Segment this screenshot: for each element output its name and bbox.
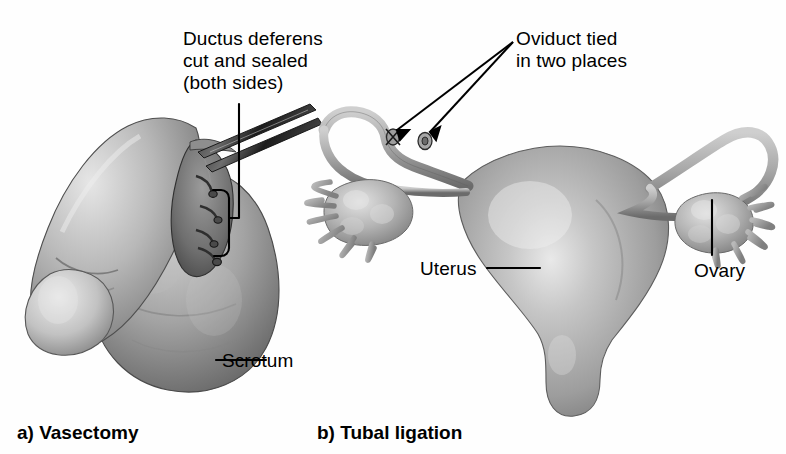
- oviduct-tied-arrows: [397, 42, 513, 140]
- anatomy-illustration: [0, 0, 786, 454]
- left-oviduct: [324, 112, 468, 193]
- label-oviduct-tied: Oviduct tied in two places: [516, 28, 627, 72]
- label-ductus-deferens: Ductus deferens cut and sealed (both sid…: [183, 28, 323, 94]
- ligature-knot-distal: [418, 133, 432, 150]
- sterilization-figure: Ductus deferens cut and sealed (both sid…: [0, 0, 786, 454]
- label-uterus: Uterus: [420, 258, 477, 280]
- right-ovary: [675, 193, 753, 253]
- label-ovary: Ovary: [694, 260, 745, 282]
- vasectomy-illustration: [25, 104, 322, 392]
- caption-panel-b: b) Tubal ligation: [317, 422, 462, 444]
- label-scrotum: Scrotum: [222, 350, 293, 372]
- left-ovary: [324, 180, 413, 246]
- tubal-ligation-illustration: [307, 42, 773, 416]
- uterus-shape: [458, 146, 668, 416]
- caption-panel-a: a) Vasectomy: [17, 422, 138, 444]
- forceps-icon: [198, 104, 322, 172]
